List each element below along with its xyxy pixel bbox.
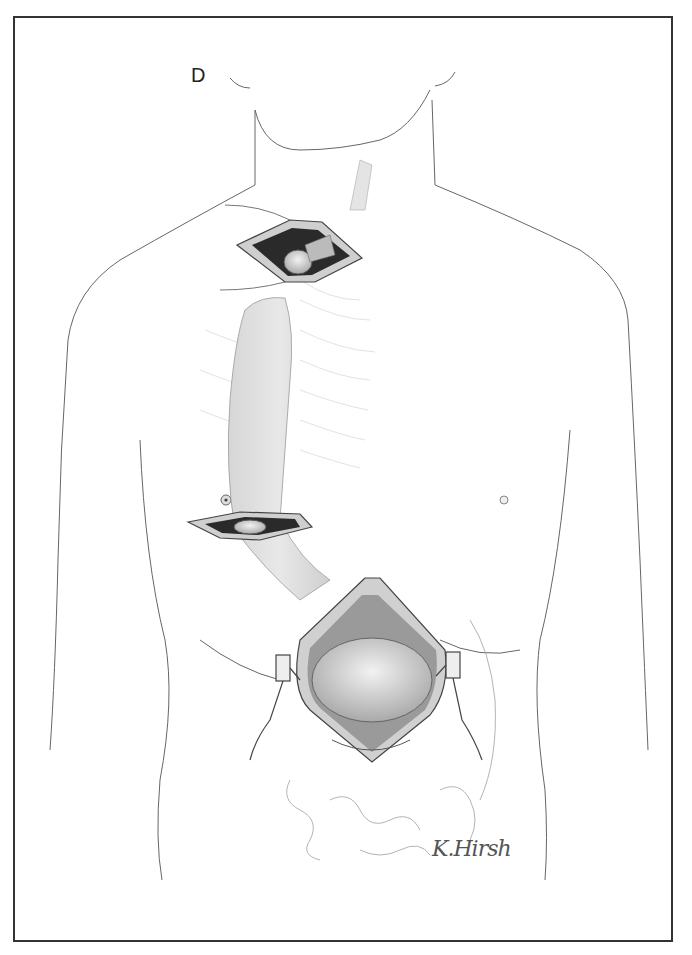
- torso-illustration: [0, 0, 692, 955]
- body-outline: [50, 72, 648, 880]
- panel-label: D: [191, 64, 205, 87]
- retractor-left: [250, 655, 300, 760]
- retractor-right: [436, 652, 482, 760]
- cervical-incision: [220, 205, 362, 290]
- abdominal-incision: [297, 578, 446, 762]
- thoracic-incision: [188, 512, 312, 540]
- artist-signature: K.Hirsh: [432, 836, 511, 861]
